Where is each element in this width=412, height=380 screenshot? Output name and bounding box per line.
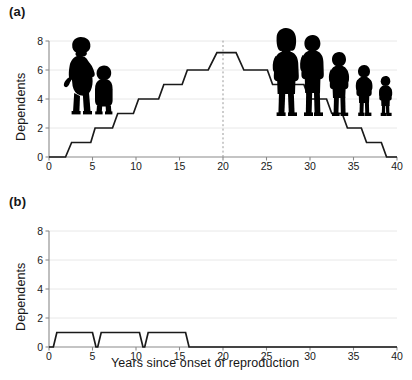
svg-text:20: 20 <box>217 350 229 362</box>
svg-text:5: 5 <box>90 160 96 172</box>
svg-text:10: 10 <box>130 350 142 362</box>
svg-text:15: 15 <box>174 160 186 172</box>
panel-b-tick-labels: 024680510152025303540 <box>37 225 403 362</box>
svg-text:20: 20 <box>217 160 229 172</box>
svg-text:2: 2 <box>37 122 43 134</box>
figure-dependents-over-time: (a) Dependents 024680510152025303540 <box>0 0 412 380</box>
svg-text:30: 30 <box>304 350 316 362</box>
svg-text:0: 0 <box>46 350 52 362</box>
svg-text:40: 40 <box>391 160 403 172</box>
panel-b-gridlines <box>49 231 397 318</box>
panel-a-tick-labels: 024680510152025303540 <box>37 35 403 172</box>
svg-text:25: 25 <box>261 160 273 172</box>
svg-text:6: 6 <box>37 64 43 76</box>
svg-text:15: 15 <box>174 350 186 362</box>
panel-a: (a) Dependents 024680510152025303540 <box>0 0 412 190</box>
svg-text:5: 5 <box>90 350 96 362</box>
svg-text:0: 0 <box>37 341 43 353</box>
panel-b-plot: 024680510152025303540 <box>0 190 412 380</box>
svg-text:4: 4 <box>37 93 43 105</box>
svg-text:6: 6 <box>37 254 43 266</box>
svg-text:35: 35 <box>348 350 360 362</box>
svg-text:8: 8 <box>37 35 43 47</box>
svg-text:40: 40 <box>391 350 403 362</box>
panel-b-axes <box>46 231 398 351</box>
svg-text:30: 30 <box>304 160 316 172</box>
panel-b: (b) Dependents Years since onset of repr… <box>0 190 412 380</box>
panel-a-axes <box>46 41 398 161</box>
svg-text:10: 10 <box>130 160 142 172</box>
svg-text:8: 8 <box>37 225 43 237</box>
svg-text:2: 2 <box>37 312 43 324</box>
svg-text:25: 25 <box>261 350 273 362</box>
svg-text:0: 0 <box>46 160 52 172</box>
svg-text:0: 0 <box>37 151 43 163</box>
svg-text:35: 35 <box>348 160 360 172</box>
panel-b-data-line <box>49 333 397 348</box>
svg-text:4: 4 <box>37 283 43 295</box>
panel-a-plot: 024680510152025303540 <box>0 0 412 190</box>
